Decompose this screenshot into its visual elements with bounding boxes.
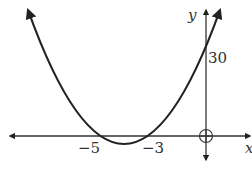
x-tick-neg3: −3 — [142, 139, 164, 157]
parabola-curve — [28, 10, 220, 144]
y-axis-label: y — [187, 6, 197, 24]
x-axis-label: x — [245, 139, 252, 157]
x-tick-neg5: −5 — [78, 139, 100, 157]
parabola-graph: y 30 −5 −3 x — [0, 0, 252, 177]
origin-marker-icon — [200, 130, 213, 143]
y-tick-30: 30 — [208, 49, 227, 67]
